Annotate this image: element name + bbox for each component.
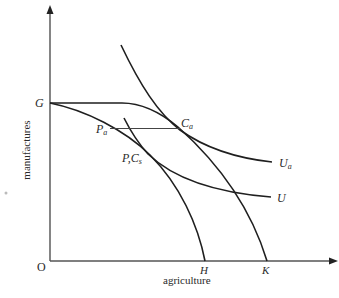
tick-label-k: K	[261, 264, 270, 276]
point-label-ca: Ca	[181, 116, 193, 131]
diagram-canvas: O G H K agriculture manufactures Pa Ca P…	[0, 0, 339, 298]
y-axis-arrow-icon	[47, 5, 54, 14]
origin-label: O	[37, 260, 46, 274]
point-label-g: G	[35, 96, 44, 110]
x-axis-arrow-icon	[329, 258, 338, 265]
x-axis-label: agriculture	[163, 274, 211, 286]
curve-label-u: U	[277, 191, 287, 205]
y-axis-label: manufactures	[20, 120, 32, 179]
ppf-outer-curve	[50, 103, 267, 261]
indifference-curve-u	[124, 118, 271, 197]
point-label-pa: Pa	[95, 122, 107, 137]
curve-label-ua: Ua	[279, 156, 292, 171]
scan-artifact	[5, 192, 8, 195]
point-label-pcs: P,Cs	[121, 151, 142, 166]
